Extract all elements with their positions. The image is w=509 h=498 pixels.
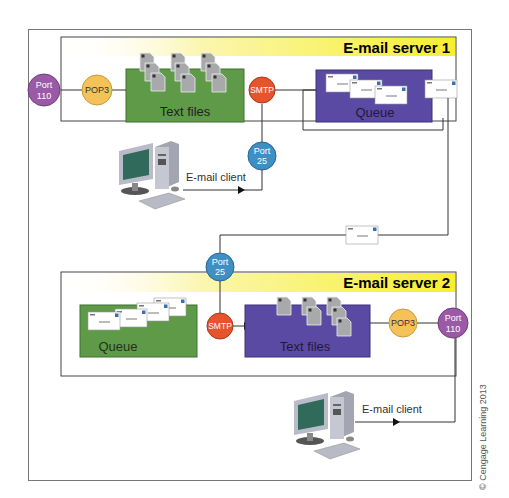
outgoing-email-icon	[425, 80, 457, 98]
svg-text:Port: Port	[212, 257, 229, 267]
server2-text-files-label: Text files	[280, 339, 331, 354]
client1-label: E-mail client	[186, 171, 246, 183]
svg-text:SMTP: SMTP	[250, 85, 274, 95]
email-flow-diagram: E-mail server 1 Text files Queue Port 11…	[0, 0, 509, 498]
client2-label: E-mail client	[362, 403, 422, 415]
arrow-icon	[393, 418, 400, 426]
server2-title: E-mail server 2	[343, 274, 450, 291]
svg-text:POP3: POP3	[85, 85, 109, 95]
email-server-1: E-mail server 1 Text files Queue Port 11…	[28, 0, 457, 230]
server1-port-110	[28, 74, 60, 106]
copyright-notice: © Cengage Learning 2013	[478, 384, 488, 490]
server1-text-files-label: Text files	[160, 104, 211, 119]
svg-text:POP3: POP3	[391, 318, 415, 328]
computer-icon	[294, 391, 360, 459]
in-transit-email-icon	[346, 226, 378, 244]
server2-queue-label: Queue	[98, 339, 137, 354]
svg-text:25: 25	[215, 267, 225, 277]
email-server-2: E-mail server 2 Queue Text files Port 25…	[61, 253, 468, 376]
arrow-icon	[238, 186, 245, 194]
svg-text:25: 25	[257, 156, 267, 166]
server1-title: E-mail server 1	[343, 39, 450, 56]
computer-icon	[119, 141, 185, 209]
svg-text:SMTP: SMTP	[208, 321, 232, 331]
svg-text:110: 110	[37, 91, 51, 101]
svg-text:Port: Port	[36, 80, 53, 90]
server1-documents-icon	[140, 53, 226, 92]
svg-text:Port: Port	[445, 313, 462, 323]
email-client-1: E-mail client	[119, 141, 262, 209]
server1-queue-label: Queue	[355, 105, 394, 120]
svg-text:Port: Port	[254, 146, 271, 156]
svg-text:110: 110	[446, 324, 460, 334]
